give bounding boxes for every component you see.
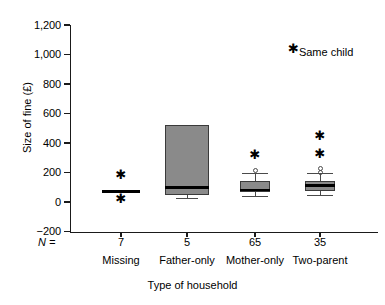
lower-whisker-cap <box>242 196 268 197</box>
y-tick-mark <box>64 201 70 202</box>
x-axis-line <box>70 232 378 233</box>
n-value-two-parent: 35 <box>290 237 350 248</box>
category-label-missing: Missing <box>83 255 159 266</box>
same-child-annotation: ✱Same child <box>288 43 353 58</box>
category-label-father-only: Father-only <box>149 255 225 266</box>
n-equals-label: N = <box>38 237 55 248</box>
median-line <box>165 186 209 189</box>
upper-whisker <box>255 173 256 181</box>
n-value-father-only: 5 <box>157 237 217 248</box>
outlier-circle <box>253 168 258 173</box>
annotation-star-icon: ✱ <box>288 41 299 56</box>
outlier-circle <box>318 170 323 175</box>
y-tick-label: 1,200 <box>0 20 61 31</box>
y-tick-mark <box>64 172 70 173</box>
n-value-missing: 7 <box>91 237 151 248</box>
outlier-star: ✱ <box>114 172 128 178</box>
box-iqr <box>165 125 209 194</box>
box-plot-figure: 1,2001,0008006004002000−200 Size of fine… <box>0 0 385 305</box>
category-label-two-parent: Two-parent <box>282 255 358 266</box>
median-line <box>305 184 335 187</box>
lower-whisker-cap <box>307 195 333 196</box>
y-tick-mark <box>64 113 70 114</box>
y-tick-mark <box>64 24 70 25</box>
y-axis-line <box>70 25 71 232</box>
x-axis-title: Type of household <box>0 280 385 291</box>
y-tick-mark <box>64 54 70 55</box>
y-tick-mark <box>64 231 70 232</box>
y-tick-mark <box>64 142 70 143</box>
y-tick-mark <box>64 83 70 84</box>
y-tick-label: 0 <box>0 197 61 208</box>
outlier-star: ✱ <box>248 152 262 158</box>
n-value-mother-only: 65 <box>225 237 285 248</box>
annotation-text: Same child <box>299 46 353 58</box>
lower-whisker-cap <box>176 198 198 199</box>
outlier-star: ✱ <box>313 133 327 139</box>
outlier-star: ✱ <box>313 151 327 157</box>
outlier-star: ✱ <box>114 196 128 202</box>
median-line <box>240 189 270 192</box>
y-axis-title: Size of fine (£) <box>22 43 33 193</box>
